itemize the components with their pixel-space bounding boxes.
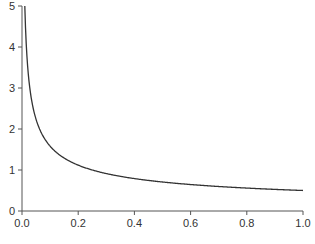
y-tick-label: 5 (9, 0, 15, 12)
y-axis: 012345 (9, 0, 22, 217)
y-tick-label: 3 (9, 82, 15, 94)
x-tick-label: 0.2 (71, 217, 86, 229)
y-tick-label: 0 (9, 205, 15, 217)
x-axis: 0.00.20.40.60.81.0 (14, 211, 310, 229)
line-chart: 012345 0.00.20.40.60.81.0 (0, 0, 315, 244)
y-tick-label: 1 (9, 164, 15, 176)
x-tick-label: 0.0 (14, 217, 29, 229)
y-tick-label: 4 (9, 41, 15, 53)
x-tick-label: 1.0 (295, 217, 310, 229)
data-line (25, 6, 303, 191)
y-tick-label: 2 (9, 123, 15, 135)
x-tick-label: 0.4 (127, 217, 142, 229)
x-tick-label: 0.8 (239, 217, 254, 229)
x-tick-label: 0.6 (183, 217, 198, 229)
